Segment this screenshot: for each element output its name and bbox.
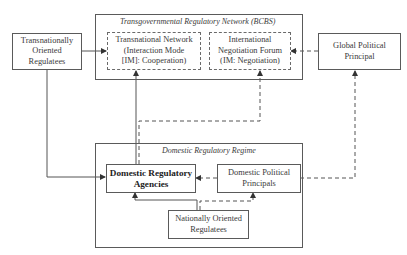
transnational-regulatees-label: Transnationally Oriented Regulatees xyxy=(21,36,73,67)
national-regulatees-node: Nationally Oriented Regulatees xyxy=(168,210,249,239)
negotiation-forum-label: International Negotiation Forum (IM: Neg… xyxy=(218,35,282,66)
transnational-regulatees-node: Transnationally Oriented Regulatees xyxy=(12,33,82,70)
edge-domestic-principals-to-global xyxy=(300,71,355,178)
domestic-political-principals-label: Domestic Political Principals xyxy=(228,168,290,189)
domestic-agencies-label: Domestic Regulatory Agencies xyxy=(110,168,192,190)
global-political-principal-node: Global Political Principal xyxy=(318,33,401,70)
domestic-agencies-node: Domestic Regulatory Agencies xyxy=(106,164,196,193)
domestic-political-principals-node: Domestic Political Principals xyxy=(217,164,301,193)
national-regulatees-label: Nationally Oriented Regulatees xyxy=(175,214,242,235)
transnational-network-label: Transnational Network (Interaction Mode … xyxy=(115,35,192,66)
transgovernmental-network-title: Transgovernmental Regulatory Network (BC… xyxy=(120,17,275,26)
transnational-network-node: Transnational Network (Interaction Mode … xyxy=(107,32,201,70)
domestic-regime-title: Domestic Regulatory Regime xyxy=(162,146,256,155)
negotiation-forum-node: International Negotiation Forum (IM: Neg… xyxy=(209,32,291,70)
global-political-principal-label: Global Political Principal xyxy=(333,41,386,62)
